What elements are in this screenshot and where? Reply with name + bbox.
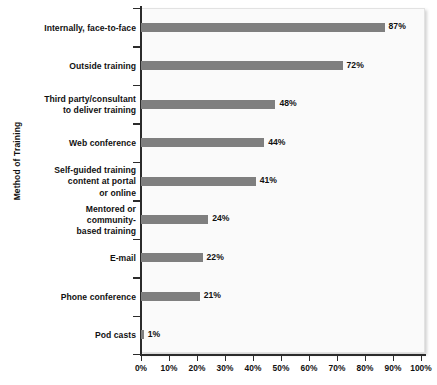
category-label: Third party/consultantto deliver trainin…: [8, 94, 136, 116]
x-axis-tick: [421, 355, 422, 361]
bar: [141, 330, 144, 339]
category-label: Mentored orcommunity-based training: [8, 204, 136, 238]
category-label-line: or online: [8, 188, 136, 199]
y-axis-tick: [133, 46, 140, 47]
y-axis-tick: [133, 85, 140, 86]
bar: [141, 23, 385, 32]
y-axis-tick: [133, 8, 140, 9]
bar-value-label: 72%: [347, 60, 364, 70]
category-label-line: E-mail: [8, 253, 136, 264]
horizontal-bar-chart: Method of Training Internally, face-to-f…: [0, 0, 437, 385]
y-axis-tick: [133, 354, 140, 355]
category-label-line: community-: [8, 215, 136, 226]
x-axis-tick: [337, 355, 338, 361]
category-label: Phone conference: [8, 292, 136, 303]
x-axis-tick: [393, 355, 394, 361]
x-axis-tick-label: 100%: [401, 363, 437, 373]
bar: [141, 292, 200, 301]
bar: [141, 61, 343, 70]
category-label-line: Mentored or: [8, 204, 136, 215]
bar: [141, 138, 264, 147]
category-label-line: based training: [8, 226, 136, 237]
bar: [141, 253, 203, 262]
category-label-line: to deliver training: [8, 105, 136, 116]
y-axis-tick: [133, 239, 140, 240]
category-label-line: Outside training: [8, 61, 136, 72]
category-label: Self-guided trainingcontent at portalor …: [8, 165, 136, 199]
x-axis-tick: [281, 355, 282, 361]
bar-value-label: 24%: [212, 213, 229, 223]
x-axis-tick: [225, 355, 226, 361]
category-label: Internally, face-to-face: [8, 23, 136, 34]
category-label-line: Pod casts: [8, 330, 136, 341]
category-label-line: Third party/consultant: [8, 94, 136, 105]
x-axis-line: [140, 354, 426, 356]
bar-value-label: 41%: [260, 175, 277, 185]
bar-value-label: 21%: [204, 290, 221, 300]
y-axis-tick: [133, 162, 140, 163]
category-label: E-mail: [8, 253, 136, 264]
category-label-column: Internally, face-to-faceOutside training…: [8, 8, 136, 353]
x-axis-tick: [169, 355, 170, 361]
category-label: Web conference: [8, 138, 136, 149]
bar-value-label: 1%: [148, 329, 160, 339]
x-axis-tick: [141, 355, 142, 361]
category-label: Outside training: [8, 61, 136, 72]
category-label-line: Self-guided training: [8, 165, 136, 176]
category-label-line: Phone conference: [8, 292, 136, 303]
bar-value-label: 87%: [389, 21, 406, 31]
x-axis-tick: [197, 355, 198, 361]
y-axis-tick: [133, 316, 140, 317]
y-axis-tick: [133, 277, 140, 278]
bar: [141, 100, 275, 109]
category-label-line: content at portal: [8, 176, 136, 187]
category-label-line: Web conference: [8, 138, 136, 149]
bar-value-label: 44%: [268, 137, 285, 147]
x-axis-tick: [365, 355, 366, 361]
bar: [141, 177, 256, 186]
bar: [141, 215, 208, 224]
y-axis-tick: [133, 123, 140, 124]
bar-value-label: 48%: [279, 98, 296, 108]
x-axis-tick: [309, 355, 310, 361]
bar-value-label: 22%: [207, 252, 224, 262]
x-axis-tick: [253, 355, 254, 361]
y-axis-tick: [133, 200, 140, 201]
category-label: Pod casts: [8, 330, 136, 341]
category-label-line: Internally, face-to-face: [8, 23, 136, 34]
